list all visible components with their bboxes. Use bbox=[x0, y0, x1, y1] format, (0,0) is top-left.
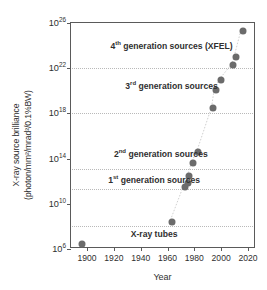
x-axis-tick bbox=[114, 247, 115, 251]
x-axis-tick-label: 1920 bbox=[104, 253, 123, 263]
y-axis-tick bbox=[67, 68, 71, 69]
y-axis-tick-label: 1022 bbox=[49, 63, 66, 73]
annotation-tubes: X-ray tubes bbox=[131, 229, 178, 239]
y-axis-tick-label: 1014 bbox=[49, 154, 66, 164]
x-axis-tick-label: 2020 bbox=[238, 253, 257, 263]
y-axis-tick-label: 1026 bbox=[49, 18, 66, 28]
xray-brilliance-chart: X-ray source brilliance (photon/mm²/mrad… bbox=[0, 0, 267, 290]
gridline bbox=[72, 169, 253, 170]
x-axis-tick-label: 1940 bbox=[131, 253, 150, 263]
y-axis-tick bbox=[67, 159, 71, 160]
data-point bbox=[168, 218, 175, 225]
y-axis-tick bbox=[67, 113, 71, 114]
y-axis-title-line2: (photon/mm²/mrad²/0.1%BW) bbox=[22, 90, 34, 200]
y-axis-tick bbox=[67, 23, 71, 24]
x-axis-tick-label: 2000 bbox=[212, 253, 231, 263]
gridline bbox=[72, 113, 253, 114]
y-axis-tick-label: 106 bbox=[52, 244, 66, 254]
gridline bbox=[72, 68, 253, 69]
y-axis-title-line1: X-ray source brilliance bbox=[10, 90, 22, 200]
x-axis-tick-label: 1900 bbox=[78, 253, 97, 263]
x-axis-tick bbox=[194, 247, 195, 251]
data-point bbox=[210, 104, 217, 111]
gridline bbox=[72, 189, 253, 190]
y-axis-title: X-ray source brilliance (photon/mm²/mrad… bbox=[0, 0, 44, 290]
y-axis-tick bbox=[67, 249, 71, 250]
y-axis-tick-label: 1010 bbox=[49, 199, 66, 209]
data-point bbox=[230, 61, 237, 68]
annotation-gen4: 4th generation sources (XFEL) bbox=[110, 41, 232, 51]
data-point bbox=[189, 160, 196, 167]
x-axis-tick bbox=[141, 247, 142, 251]
x-axis-tick-label: 1960 bbox=[158, 253, 177, 263]
annotation-gen2: 2nd generation sources bbox=[114, 149, 208, 159]
x-axis-tick bbox=[168, 247, 169, 251]
data-point bbox=[232, 53, 239, 60]
plot-area: 1026102210181014101010619001920194019601… bbox=[70, 22, 255, 248]
annotation-gen3: 3rd generation sources bbox=[125, 81, 217, 91]
x-axis-tick bbox=[221, 247, 222, 251]
y-axis-tick-label: 1018 bbox=[49, 108, 66, 118]
x-axis-tick bbox=[87, 247, 88, 251]
x-axis-title: Year bbox=[70, 272, 255, 282]
annotation-gen1: 1st generation sources bbox=[108, 175, 200, 185]
data-point bbox=[78, 241, 85, 248]
data-point bbox=[218, 76, 225, 83]
trend-line bbox=[71, 23, 254, 247]
x-axis-tick-label: 1980 bbox=[185, 253, 204, 263]
x-axis-tick bbox=[248, 247, 249, 251]
data-point bbox=[239, 27, 246, 34]
y-axis-tick bbox=[67, 204, 71, 205]
gridline bbox=[72, 226, 253, 227]
